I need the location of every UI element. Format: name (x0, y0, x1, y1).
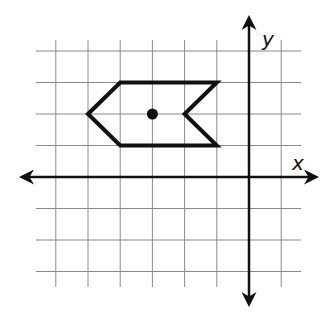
coordinate-plane: x y (0, 0, 330, 313)
y-axis-label: y (261, 27, 275, 51)
grid-lines (36, 40, 301, 287)
center-point (147, 109, 158, 120)
x-axis-label: x (291, 151, 304, 175)
